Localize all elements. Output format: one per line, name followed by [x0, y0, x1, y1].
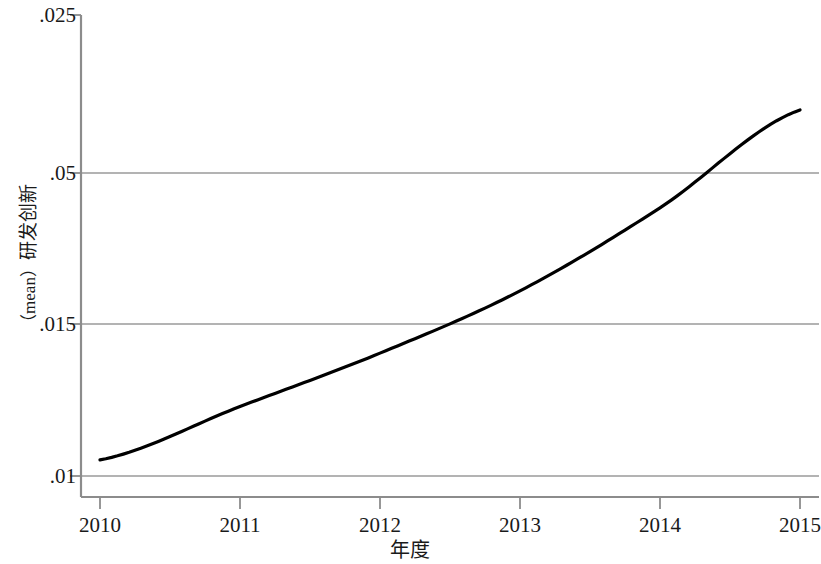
y-axis-title: （mean）研发创新 — [13, 128, 40, 388]
x-axis-title: 年度 — [0, 534, 819, 563]
y-axis-title-main: 研发创新 — [18, 184, 39, 260]
y-tick-label-0.05: .05 — [50, 161, 76, 186]
y-tick-label-0.025: .025 — [39, 3, 76, 28]
y-axis-ticks — [70, 15, 81, 476]
y-tick-label-0.01: .01 — [50, 464, 76, 489]
y-axis-title-prefix: （mean） — [20, 260, 39, 331]
x-axis-ticks — [100, 497, 800, 509]
y-tick-label-0.015: .015 — [39, 312, 76, 337]
data-series-line — [100, 110, 800, 460]
